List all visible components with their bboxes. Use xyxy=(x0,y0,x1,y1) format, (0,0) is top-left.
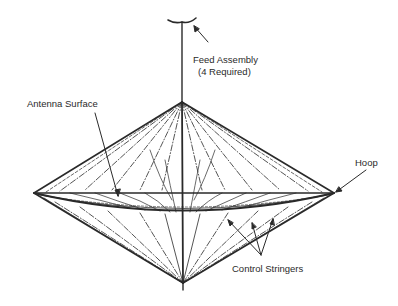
feed-assembly-label: Feed Assembly xyxy=(193,54,258,65)
antenna-surface-label: Antenna Surface xyxy=(27,98,98,109)
lower-cone xyxy=(34,193,334,290)
antenna-diagram xyxy=(0,0,398,306)
feed-assembly-icon xyxy=(168,18,196,102)
control-stringers-label: Control Stringers xyxy=(232,263,303,274)
hoop-label: Hoop xyxy=(355,157,378,168)
feed-assembly-note: (4 Required) xyxy=(198,66,251,77)
hoop-ring xyxy=(34,193,334,211)
upper-cone xyxy=(34,102,334,193)
